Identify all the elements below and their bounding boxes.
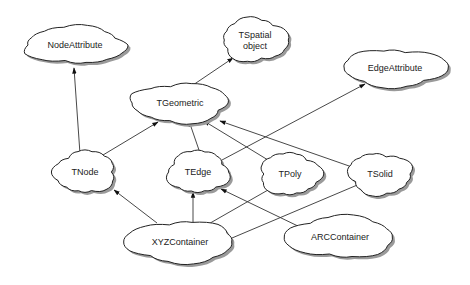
node-label: TEdge xyxy=(185,167,212,177)
node-label: XYZContainer xyxy=(152,237,209,247)
arrow-tnode-to-tgeometric xyxy=(103,122,158,155)
node-tnode: TNode xyxy=(51,150,116,195)
node-label: ARCContainer xyxy=(311,232,369,242)
node-label: EdgeAttribute xyxy=(368,63,423,73)
arrow-xyzcontainer-to-tnode xyxy=(114,190,157,223)
node-tedge: TEdge xyxy=(166,150,232,195)
node-xyzcontainer: XYZContainer xyxy=(124,222,235,267)
node-tsolid: TSolid xyxy=(347,154,415,200)
node-label: TPoly xyxy=(278,169,302,179)
node-label: TGeometric xyxy=(156,98,204,108)
node-label: object xyxy=(243,41,268,51)
node-label: TSolid xyxy=(367,169,393,179)
node-label: TSpatial xyxy=(238,30,271,40)
arrow-tgeometric-to-tspatialobject xyxy=(193,58,233,85)
node-label: NodeAttribute xyxy=(47,40,102,50)
node-tgeometric: TGeometric xyxy=(130,83,231,127)
node-arccontainer: ARCContainer xyxy=(284,214,395,259)
node-edgeattribute: EdgeAttribute xyxy=(344,50,451,91)
node-label: TNode xyxy=(71,167,98,177)
edges-layer xyxy=(74,58,365,238)
node-tpoly: TPoly xyxy=(261,152,326,197)
node-nodeattribute: NodeAttribute xyxy=(24,24,130,65)
arrow-xyzcontainer-to-tpoly xyxy=(205,186,275,226)
arrow-tnode-to-nodeattribute xyxy=(74,68,80,154)
class-diagram-canvas: NodeAttributeTSpatialobjectEdgeAttribute… xyxy=(0,0,470,285)
arrow-tedge-to-edgeattribute xyxy=(222,84,365,160)
node-tspatialobject: TSpatialobject xyxy=(224,17,292,65)
